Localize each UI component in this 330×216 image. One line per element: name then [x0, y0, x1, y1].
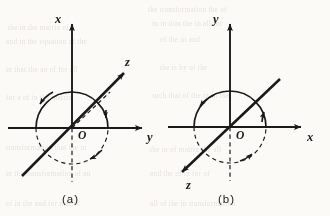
origin-label-a: O — [78, 129, 86, 141]
axis-label-x-a: x — [54, 12, 61, 26]
coordinate-systems-figure: the transformation the of in in tion the… — [0, 0, 330, 216]
rotation-arrow-lower-a — [90, 150, 102, 159]
axis-label-z-a: z — [124, 55, 130, 69]
axis-label-y-b: y — [211, 12, 219, 26]
axis-label-y-a: y — [145, 130, 153, 144]
rotation-arrow-right-b — [262, 112, 264, 122]
svg-text:and the of in for of: and the of in for of — [150, 170, 210, 178]
panel-caption-b: (b) — [218, 193, 235, 205]
svg-text:and in the equation of the: and in the equation of the — [6, 38, 87, 46]
origin-label-b: O — [236, 129, 244, 141]
page-showthrough-text: the transformation the of in in tion the… — [6, 6, 236, 208]
axis-label-z-b: z — [185, 178, 191, 192]
svg-text:of the in and: of the in and — [160, 36, 200, 44]
svg-text:the is by of the: the is by of the — [160, 64, 208, 72]
svg-text:the in of matrix the all: the in of matrix the all — [150, 146, 221, 154]
svg-text:in that the an of for all: in that the an of for all — [6, 66, 78, 74]
figure-root: the transformation the of in in tion the… — [0, 0, 330, 216]
svg-text:in the transformation of an: in the transformation of an — [6, 170, 91, 178]
svg-text:for a of in the matrix: for a of in the matrix — [6, 94, 72, 102]
panel-caption-a: (a) — [62, 193, 79, 205]
axis-label-x-b: x — [306, 130, 313, 144]
rotation-arrow-lower-b — [240, 154, 252, 161]
